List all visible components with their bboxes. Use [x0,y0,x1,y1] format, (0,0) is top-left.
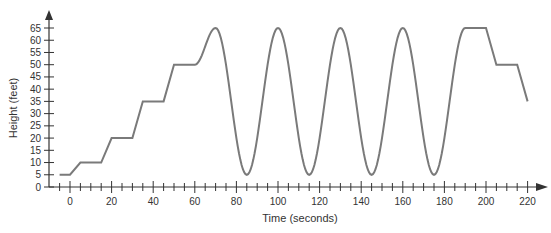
y-tick-label: 25 [30,120,42,131]
x-tick-label: 140 [353,196,370,207]
y-tick-label: 40 [30,84,42,95]
x-tick-label: 40 [148,196,160,207]
x-tick-label: 160 [394,196,411,207]
x-axis-title: Time (seconds) [262,212,337,224]
y-tick-label: 60 [30,35,42,46]
y-axis-title: Height (feet) [7,78,19,139]
x-tick-label: 220 [519,196,536,207]
y-tick-label: 20 [30,133,42,144]
y-tick-label: 5 [35,169,41,180]
x-tick-label: 180 [436,196,453,207]
x-tick-label: 60 [189,196,201,207]
y-tick-label: 15 [30,145,42,156]
y-tick-label: 30 [30,108,42,119]
chart: 05101520253035404550556065 0204060801001… [0,0,551,233]
height-line [60,28,528,175]
x-tick-label: 80 [231,196,243,207]
y-tick-label: 10 [30,157,42,168]
y-axis: 05101520253035404550556065 [30,10,54,193]
y-tick-label: 0 [35,182,41,193]
x-axis: 020406080100120140160180200220 [49,181,548,207]
x-tick-label: 120 [311,196,328,207]
y-tick-label: 35 [30,96,42,107]
x-tick-label: 0 [67,196,73,207]
x-tick-label: 100 [270,196,287,207]
x-tick-label: 20 [106,196,118,207]
x-tick-label: 200 [478,196,495,207]
y-tick-label: 50 [30,59,42,70]
y-tick-label: 45 [30,71,42,82]
y-tick-label: 55 [30,47,42,58]
y-tick-label: 65 [30,23,42,34]
